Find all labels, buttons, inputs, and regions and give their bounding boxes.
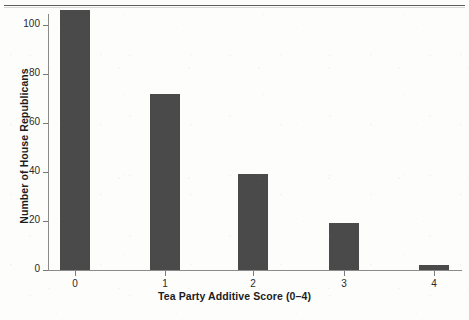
x-axis-tick-mark — [344, 271, 345, 276]
bar — [329, 223, 359, 270]
y-axis-tick-mark — [43, 270, 48, 271]
x-axis-title: Tea Party Additive Score (0–4) — [0, 290, 469, 302]
x-axis-tick-label: 1 — [151, 278, 179, 289]
bar — [150, 94, 180, 270]
bar — [238, 174, 268, 270]
x-axis-tick-mark — [165, 271, 166, 276]
x-axis-line — [48, 270, 462, 271]
x-axis-tick-mark — [75, 271, 76, 276]
x-axis-tick-mark — [253, 271, 254, 276]
bar — [419, 265, 449, 270]
x-axis-tick-label: 4 — [420, 278, 448, 289]
x-axis-tick-label: 3 — [330, 278, 358, 289]
x-axis-tick-label: 0 — [61, 278, 89, 289]
bar — [60, 10, 90, 270]
x-axis-tick-label: 2 — [239, 278, 267, 289]
figure-page: Number of House Republicans 020406080100… — [0, 0, 469, 320]
bar-series — [0, 0, 469, 270]
x-axis-tick-mark — [434, 271, 435, 276]
bar-chart: Number of House Republicans 020406080100… — [0, 0, 469, 320]
